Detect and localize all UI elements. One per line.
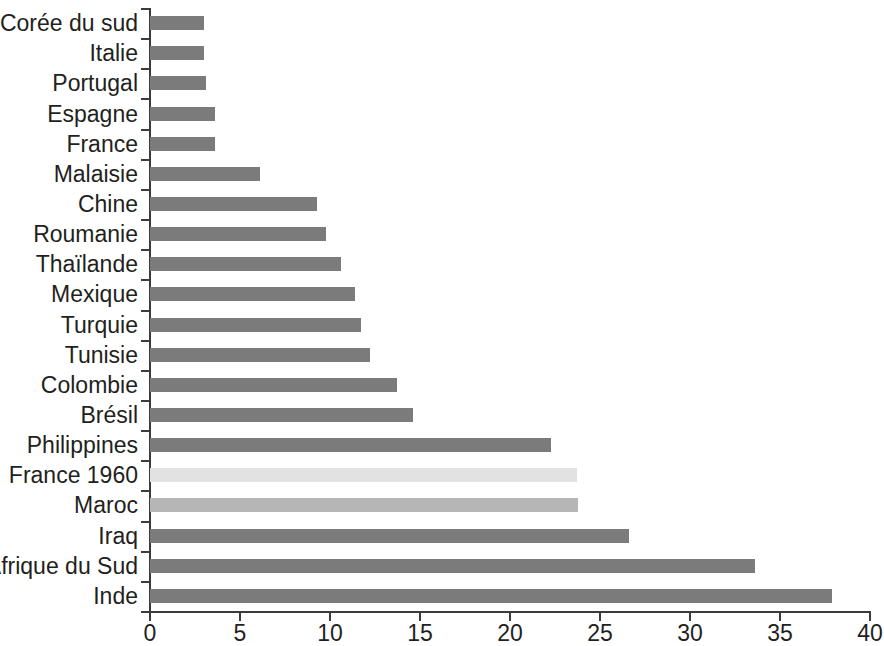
y-axis-tick	[141, 159, 150, 161]
bar	[150, 76, 206, 90]
y-axis-tick	[141, 551, 150, 553]
y-axis-tick	[141, 490, 150, 492]
y-axis-tick	[141, 38, 150, 40]
category-label: Corée du sud	[0, 10, 138, 36]
category-label: Roumanie	[33, 221, 138, 247]
category-label: Malaisie	[54, 161, 138, 187]
category-label: Iraq	[98, 523, 138, 549]
y-axis-tick	[141, 370, 150, 372]
y-axis-tick	[141, 68, 150, 70]
category-label: Philippines	[27, 432, 138, 458]
category-label: France	[66, 131, 138, 157]
bar	[150, 589, 832, 603]
bar	[150, 438, 551, 452]
category-label: Chine	[78, 191, 138, 217]
x-axis-tick-label: 25	[587, 621, 613, 646]
bar	[150, 348, 370, 362]
category-label: France 1960	[9, 462, 138, 488]
y-axis-tick	[141, 340, 150, 342]
category-label: Portugal	[52, 70, 138, 96]
bar	[150, 498, 578, 512]
bar	[150, 137, 215, 151]
bar	[150, 378, 397, 392]
category-label: Mexique	[51, 281, 138, 307]
bar	[150, 107, 215, 121]
x-axis-tick-label: 35	[767, 621, 793, 646]
bar	[150, 197, 317, 211]
bar	[150, 227, 326, 241]
category-label: Thaïlande	[36, 251, 138, 277]
y-axis-tick	[141, 581, 150, 583]
bar	[150, 167, 260, 181]
y-axis-tick	[141, 8, 150, 10]
category-label: Turquie	[61, 312, 138, 338]
y-axis-tick	[141, 129, 150, 131]
category-label: Maroc	[74, 492, 138, 518]
category-label: Inde	[93, 583, 138, 609]
y-axis-tick	[141, 249, 150, 251]
category-label: Afrique du Sud	[0, 553, 138, 579]
category-label: Colombie	[41, 372, 138, 398]
x-axis-tick-label: 10	[317, 621, 343, 646]
y-axis-tick	[141, 460, 150, 462]
bar	[150, 318, 361, 332]
category-label: Italie	[89, 40, 138, 66]
x-axis-tick-label: 5	[234, 621, 247, 646]
category-label: Espagne	[47, 101, 138, 127]
x-axis-tick-label: 40	[857, 621, 883, 646]
x-axis-tick-label: 15	[407, 621, 433, 646]
bar	[150, 46, 204, 60]
bar	[150, 468, 577, 482]
x-axis-tick-label: 20	[497, 621, 523, 646]
bar-chart: 0510152025303540 Corée du sudItaliePortu…	[0, 0, 884, 646]
y-axis-tick	[141, 310, 150, 312]
y-axis-tick	[141, 430, 150, 432]
y-axis-tick	[141, 98, 150, 100]
bar	[150, 257, 341, 271]
bar	[150, 559, 755, 573]
y-axis-tick	[141, 219, 150, 221]
y-axis-tick	[141, 279, 150, 281]
category-label: Brésil	[80, 402, 138, 428]
y-axis-tick	[141, 521, 150, 523]
bar	[150, 287, 355, 301]
x-axis-tick-label: 0	[144, 621, 157, 646]
bar	[150, 408, 413, 422]
bar	[150, 529, 629, 543]
x-axis-tick-label: 30	[677, 621, 703, 646]
y-axis-tick	[141, 189, 150, 191]
category-label: Tunisie	[65, 342, 138, 368]
y-axis-tick	[141, 400, 150, 402]
bar	[150, 16, 204, 30]
